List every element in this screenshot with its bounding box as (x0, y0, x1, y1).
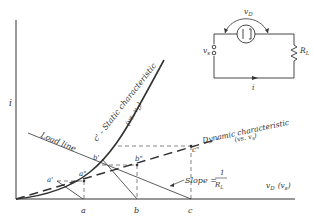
circuit-schematic (212, 19, 297, 80)
point-a-prime: a' (47, 176, 53, 184)
slope-denominator: RL (214, 181, 224, 190)
circuit-vd-label: vD (244, 7, 253, 17)
diagram-canvas: i vD(vs) a b c Load line c' - Static cha… (0, 0, 313, 216)
load-line-b-full (102, 159, 137, 177)
point-b-double-prime: b" (135, 155, 143, 163)
point-a-double-prime: a" (79, 170, 86, 178)
slope-label: Slope = (185, 176, 217, 185)
vd-arc (225, 19, 268, 33)
current-arrow-icon (252, 76, 258, 80)
circuit-vs-label: vs (203, 46, 210, 56)
diode-tube-icon (237, 25, 255, 43)
tick-b: b (134, 206, 139, 215)
point-b-prime: b' (93, 154, 99, 162)
load-line-label: Load line (38, 130, 77, 153)
x-axis-label: vD(vs) (266, 181, 291, 191)
circuit-rl-label: RL (299, 46, 310, 56)
terminal-bottom-icon (212, 51, 216, 55)
circuit-i-label: i (252, 83, 255, 92)
resistor-icon (291, 34, 297, 78)
tick-c: c (188, 206, 193, 215)
tick-a: a (81, 206, 86, 215)
slope-arrowhead-icon (170, 183, 174, 187)
slope-numerator: 1 (220, 169, 224, 177)
terminal-top-icon (212, 45, 216, 49)
diode-characteristic-diagram: i vD(vs) a b c Load line c' - Static cha… (0, 0, 313, 216)
y-axis-label: i (9, 98, 12, 108)
point-c-double-prime: c" (192, 146, 199, 154)
